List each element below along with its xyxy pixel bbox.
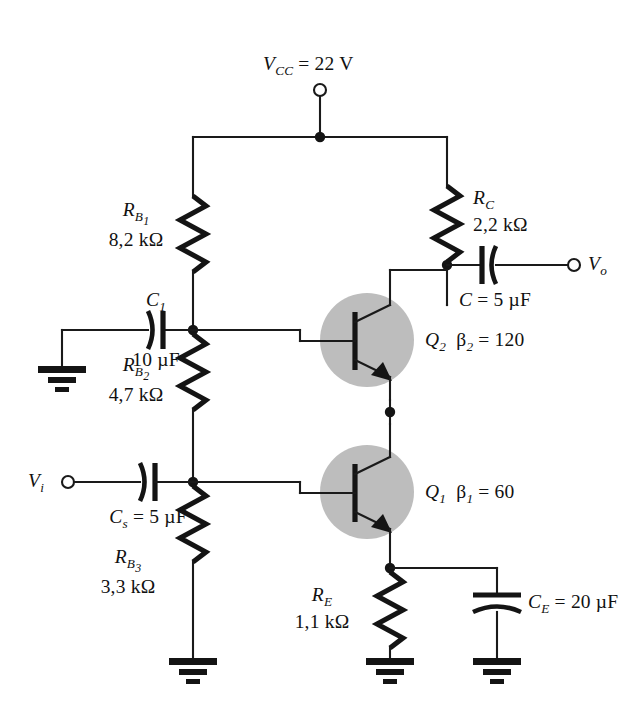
- gnd-rb3-bar2: [179, 669, 207, 675]
- cs-value: 5 µF: [149, 506, 187, 527]
- rb2-zigzag: [180, 334, 206, 410]
- gnd-re-bar3: [383, 679, 397, 684]
- rb2-value: 4,7 kΩ: [90, 383, 182, 407]
- rb3-name: RB3: [82, 545, 174, 575]
- emitter-network-group: [377, 563, 521, 658]
- c-output-label: C = 5 µF: [440, 288, 550, 311]
- rb1-label: RB1 8,2 kΩ: [90, 198, 182, 252]
- ce-label: CE = 20 µF: [528, 590, 618, 617]
- cs-equals: =: [133, 506, 144, 527]
- gnd-re-bar2: [376, 669, 404, 675]
- circuit-diagram: VCC = 22 V RB1 8,2 kΩ RC 2,2 kΩ C1 10 µF…: [0, 0, 634, 712]
- gnd-re-bar1: [366, 658, 414, 665]
- q1-beta-value: 60: [495, 481, 515, 502]
- gnd-rb3-bar3: [186, 679, 200, 684]
- rb1-zigzag: [180, 196, 206, 272]
- re-label: RE 1,1 kΩ: [272, 583, 372, 634]
- rc-value: 2,2 kΩ: [473, 213, 528, 237]
- ground-symbol-c1: [38, 366, 86, 392]
- vcc-terminal-node: [314, 84, 326, 96]
- q2-beta-value: 120: [495, 329, 525, 350]
- q1-beta-equals: =: [478, 481, 489, 502]
- vin-label: Vi: [28, 469, 44, 496]
- junction-q2e-q1c: [385, 407, 395, 417]
- gnd-c1-bar1: [38, 366, 86, 373]
- re-name: RE: [272, 583, 372, 610]
- rb2-label: RB2 4,7 kΩ: [90, 353, 182, 407]
- rb3-label: RB3 3,3 kΩ: [82, 545, 174, 599]
- gnd-c1-bar2: [48, 377, 76, 383]
- q2-label: Q2 β2 = 120: [425, 328, 524, 355]
- rb3-value: 3,3 kΩ: [82, 575, 174, 599]
- q2-beta-equals: =: [478, 329, 489, 350]
- gnd-ce-bar3: [490, 679, 504, 684]
- ce-value: 20 µF: [571, 591, 618, 612]
- rc-zigzag: [434, 186, 460, 262]
- interstage-coupling: [385, 400, 395, 424]
- ce-equals: =: [555, 591, 566, 612]
- gnd-c1-bar3: [55, 387, 69, 392]
- junction-vcc: [315, 132, 325, 142]
- gnd-rb3-bar1: [169, 658, 217, 665]
- gnd-ce-bar2: [483, 669, 511, 675]
- rb1-name: RB1: [90, 198, 182, 228]
- vcc-value: 22 V: [315, 53, 354, 74]
- gnd-ce-bar1: [473, 658, 521, 665]
- cs-label: Cs = 5 µF: [88, 505, 208, 532]
- vout-terminal-node: [568, 259, 580, 271]
- c1-name-label: C1: [110, 288, 202, 315]
- re-zigzag: [377, 572, 403, 648]
- c-output-equals: =: [477, 289, 488, 310]
- ground-symbol-rb3: [169, 658, 217, 684]
- rc-name: RC: [473, 186, 528, 213]
- vcc-equals: =: [298, 53, 309, 74]
- rb1-value: 8,2 kΩ: [90, 228, 182, 252]
- rc-label: RC 2,2 kΩ: [473, 186, 528, 237]
- vcc-label: VCC = 22 V: [263, 52, 353, 79]
- vin-terminal-node: [62, 476, 74, 488]
- ground-symbol-re: [366, 658, 414, 684]
- capacitor-cs-branch: [62, 463, 193, 501]
- transistor-q1-symbol: [300, 424, 414, 568]
- rb2-name: RB2: [90, 353, 182, 383]
- supply-rail-group: [193, 84, 447, 196]
- q1-label: Q1 β1 = 60: [425, 480, 515, 507]
- ground-symbol-ce: [473, 658, 521, 684]
- c-output-value: 5 µF: [494, 289, 532, 310]
- re-value: 1,1 kΩ: [272, 610, 372, 634]
- vout-label: Vo: [588, 252, 607, 279]
